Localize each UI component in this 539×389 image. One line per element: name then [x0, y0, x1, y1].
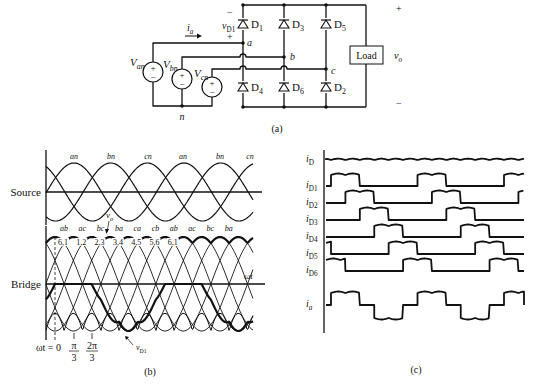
line-voltage-label: cb [152, 224, 160, 233]
vo-label: vo [394, 50, 402, 64]
trace-label-iD3: iD3 [306, 213, 318, 227]
diode-pair-label: 1,2 [76, 238, 86, 247]
source-peak-label: cn [144, 152, 152, 161]
source-label: Source [10, 186, 41, 198]
junction-dot [241, 105, 245, 109]
node-c-dot [324, 67, 328, 71]
caption-c: (c) [410, 364, 421, 376]
node-n-label: n [180, 111, 185, 122]
vo-plus: + [396, 3, 402, 14]
panel-c-currents: iDiD1iD2iD3iD4iD5iD6ia(c) [306, 150, 524, 376]
trace-iD4 [326, 225, 524, 238]
source-label-vbn: Vbn [163, 58, 178, 73]
trace-ia [326, 292, 524, 320]
trace-iD6 [326, 259, 524, 272]
caption-b: (b) [144, 366, 156, 378]
junction-dot [324, 3, 328, 7]
vo-arrow-icon [105, 229, 109, 234]
diode-label-D6: D6 [292, 81, 304, 96]
tick-label-pi3-num: π [71, 340, 76, 351]
rectifier-figure: Load+vo−D1D3D5D4D6D2abcn+−+−+−VanVbnVcni… [0, 0, 539, 389]
vd1-minus: − [227, 7, 233, 18]
current-arrow-icon [197, 34, 202, 39]
node-n-dot [180, 104, 184, 108]
diode-voltage-vd1-curve [46, 284, 253, 331]
trace-label-iD1: iD1 [306, 179, 318, 193]
junction-dot [324, 105, 328, 109]
tick-label-zero: ωt = 0 [36, 342, 61, 353]
diode-label-D1: D1 [251, 18, 263, 33]
line-voltage-label: bc [97, 224, 105, 233]
junction-dot [282, 105, 286, 109]
vd1-annotation: vD1 [136, 343, 147, 354]
node-b-dot [282, 55, 286, 59]
source-label-vcn: Vcn [194, 67, 208, 82]
source-peak-label: an [70, 152, 78, 161]
vd1-plus: + [227, 31, 233, 42]
diode-label-D5: D5 [334, 18, 346, 33]
vo-minus: − [396, 98, 402, 109]
line-voltage-label: ab [60, 224, 68, 233]
tick-label-2pi3-num: 2π [87, 340, 97, 351]
junction-dot [241, 3, 245, 7]
trace-iD3 [326, 208, 524, 221]
diode-label-D3: D3 [292, 18, 304, 33]
line-voltage-label: bc [207, 224, 215, 233]
diode-pair-label: 6,1 [168, 238, 178, 247]
line-voltage-label: ca [133, 224, 141, 233]
source-peak-label: cn [246, 152, 254, 161]
diode-label-D2: D2 [334, 81, 346, 96]
trace-label-iD5: iD5 [306, 247, 318, 261]
tick-label-pi3-den: 3 [72, 352, 77, 363]
line-voltage-label: ac [188, 224, 196, 233]
trace-label-iD4: iD4 [306, 230, 318, 244]
source-label-van: Van [130, 56, 145, 71]
current-ia-label: ia [187, 22, 194, 36]
bridge-label: Bridge [11, 278, 41, 290]
source-peak-label: bn [216, 152, 224, 161]
trace-label-iD6: iD6 [306, 264, 318, 278]
node-b-label: b [290, 51, 295, 62]
trace-iD2 [326, 191, 523, 204]
source-minus: − [209, 87, 214, 97]
line-voltage-label: ab [170, 224, 178, 233]
line-voltage-label: ac [79, 224, 87, 233]
load-label: Load [356, 50, 377, 61]
diode-label-D4: D4 [251, 81, 263, 96]
node-c-label: c [331, 65, 336, 76]
wire-c [212, 66, 326, 77]
trace-label-iD: iD [306, 153, 314, 167]
diode-pair-label: 3,4 [113, 238, 123, 247]
source-minus: − [150, 72, 155, 82]
diode-pair-label: 5,6 [150, 238, 160, 247]
tick-label-2pi3-den: 3 [90, 352, 95, 363]
junction-dot [282, 3, 286, 7]
trace-iD5 [326, 242, 524, 255]
trace-iD [326, 159, 524, 160]
vd1-arrow [127, 338, 133, 345]
trace-iD1 [326, 174, 524, 187]
line-voltage-label: ba [115, 224, 123, 233]
source-peak-label: bn [107, 152, 115, 161]
node-a-label: a [247, 37, 252, 48]
diode-pair-label: 4,5 [131, 238, 141, 247]
vo-annotation: vo [106, 210, 114, 222]
line-voltage-label: ba [225, 224, 233, 233]
diode-pair-label: 2,3 [95, 238, 105, 247]
trace-label-ia: ia [306, 298, 313, 312]
source-peak-label: an [179, 152, 187, 161]
panel-b-waveforms: SourceanbncnanbncnBridgeωtωt = 0π32π3aba… [10, 150, 265, 378]
trace-label-iD2: iD2 [306, 196, 318, 210]
bottom-envelope [46, 313, 253, 330]
panel-a-circuit: Load+vo−D1D3D5D4D6D2abcn+−+−+−VanVbnVcni… [130, 3, 402, 135]
diode-pair-label: 6,1 [58, 238, 68, 247]
source-minus: − [179, 79, 184, 89]
caption-a: (a) [271, 123, 282, 135]
node-a-dot [241, 41, 245, 45]
